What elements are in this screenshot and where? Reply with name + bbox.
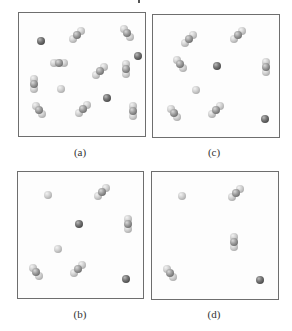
central-atom-sphere [73,31,81,39]
central-atom-sphere [166,269,174,277]
atom-sphere [75,220,83,228]
central-atom-sphere [55,59,63,67]
central-atom-sphere [122,65,130,73]
atom-sphere [37,37,45,45]
central-atom-sphere [79,105,87,113]
atom-sphere [44,191,52,199]
panel-d-label: (d) [184,308,244,320]
atom-sphere [57,85,65,93]
central-atom-sphere [230,238,238,246]
atom-sphere [256,276,264,284]
central-atom-sphere [234,31,242,39]
central-atom-sphere [96,67,104,75]
central-atom-sphere [129,107,137,115]
central-atom-sphere [123,29,131,37]
central-atom-sphere [30,80,38,88]
panel-b [17,171,144,299]
central-atom-sphere [32,268,40,276]
panel-c [152,14,280,138]
central-atom-sphere [124,220,132,228]
atom-sphere [261,115,269,123]
central-atom-sphere [74,265,82,273]
atom-sphere [134,52,142,60]
panel-b-label: (b) [50,308,110,320]
atom-sphere [178,192,186,200]
panel-a [18,12,146,137]
central-atom-sphere [170,109,178,117]
atom-sphere [192,86,200,94]
central-atom-sphere [176,60,184,68]
panel-a-label: (a) [50,146,110,158]
central-atom-sphere [232,189,240,197]
scan-artifact [138,0,140,3]
panel-c-label: (c) [184,146,244,158]
atom-sphere [54,245,62,253]
panel-d [151,171,279,300]
atom-sphere [213,62,221,70]
central-atom-sphere [262,63,270,71]
central-atom-sphere [35,106,43,114]
central-atom-sphere [185,35,193,43]
central-atom-sphere [98,188,106,196]
central-atom-sphere [212,106,220,114]
atom-sphere [122,275,130,283]
atom-sphere [103,94,111,102]
